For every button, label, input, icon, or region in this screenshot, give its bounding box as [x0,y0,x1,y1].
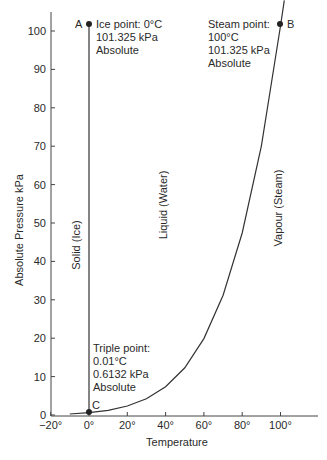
x-axis-title: Temperature [146,436,208,448]
triple-point-line3: 0.6132 kPa [93,368,150,380]
y-tick-label: 20 [34,332,46,344]
x-tick-label: −20° [39,419,62,431]
triple-point-line1: Triple point: [93,342,150,354]
ice-point-line1: Ice point: 0°C [96,18,162,30]
triple-point-line2: 0.01°C [93,355,127,367]
ice-point-line3: Absolute [96,44,139,56]
y-tick-label: 10 [34,371,46,383]
y-tick-label: 90 [34,63,46,75]
steam-point-line3: 101.325 kPa [208,44,271,56]
y-tick-label: 80 [34,102,46,114]
x-tick-label: 100° [269,419,292,431]
y-tick-label: 50 [34,217,46,229]
y-tick-label: 40 [34,255,46,267]
x-tick-label: 60° [196,419,213,431]
x-ticks: −20°0°20°40°60°80°100° [39,412,292,431]
x-tick-label: 80° [234,419,251,431]
steam-point-line1: Steam point: [208,18,270,30]
point-b-marker [277,21,283,27]
y-tick-label: 60 [34,179,46,191]
steam-point-line4: Absolute [208,57,251,69]
region-vapour-label: Vapour (Steam) [272,170,284,247]
point-a-marker [86,21,92,27]
y-tick-label: 100 [28,25,46,37]
x-tick-label: 0° [84,419,95,431]
point-b-label: B [287,18,294,30]
x-tick-label: 20° [119,419,136,431]
y-tick-label: 30 [34,294,46,306]
region-liquid-label: Liquid (Water) [157,171,169,240]
y-tick-label: 70 [34,140,46,152]
phase-diagram: 0102030405060708090100 −20°0°20°40°60°80… [0,0,327,460]
region-solid-label: Solid (Ice) [70,220,82,270]
triple-point-line4: Absolute [93,381,136,393]
x-tick-label: 40° [157,419,174,431]
y-axis-title: Absolute Pressure kPa [13,173,25,286]
point-a-label: A [75,18,83,30]
ice-point-line2: 101.325 kPa [96,31,159,43]
point-c-label: C [92,399,100,411]
steam-point-line2: 100°C [208,31,239,43]
